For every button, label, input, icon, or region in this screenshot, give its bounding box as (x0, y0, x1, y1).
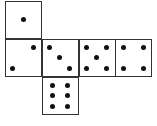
pip-dot (65, 104, 70, 109)
pip-dot (65, 83, 70, 88)
pip-dot (141, 45, 146, 50)
pip-dot (10, 66, 15, 71)
die-face-one (5, 1, 42, 39)
pip-dot (121, 66, 126, 71)
pip-dot (104, 45, 109, 50)
pip-dot (50, 104, 55, 109)
die-face-two (5, 39, 42, 77)
die-face-six (42, 77, 79, 115)
pip-dot (57, 55, 62, 60)
pip-dot (141, 66, 146, 71)
pip-dot (84, 45, 89, 50)
pip-dot (121, 45, 126, 50)
pip-dot (50, 83, 55, 88)
pip-dot (21, 17, 26, 22)
die-face-three (42, 39, 79, 77)
pip-dot (94, 55, 99, 60)
pip-dot (67, 66, 72, 71)
pip-dot (104, 66, 109, 71)
pip-dot (31, 45, 36, 50)
die-face-four (115, 39, 152, 77)
pip-dot (65, 93, 70, 98)
pip-dot (50, 93, 55, 98)
pip-dot (47, 45, 52, 50)
die-face-five (79, 39, 116, 77)
pip-dot (84, 66, 89, 71)
